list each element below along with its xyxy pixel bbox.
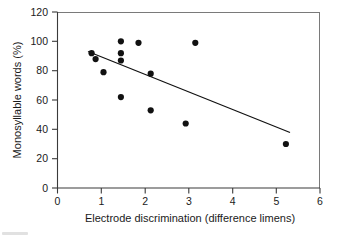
data-point [118, 94, 124, 100]
y-tick-label-20: 20 [36, 152, 48, 164]
x-tick-label-5: 5 [273, 195, 279, 207]
x-axis-tick-labels: 0 1 2 3 4 5 6 [55, 195, 324, 207]
x-tick-label-6: 6 [317, 195, 323, 207]
x-tick-label-4: 4 [230, 195, 236, 207]
y-axis-title: Monosyllable words (%) [11, 42, 23, 159]
y-tick-label-0: 0 [42, 182, 48, 194]
y-tick-label-120: 120 [30, 6, 48, 18]
regression-trend-line [88, 52, 290, 133]
x-tick-label-1: 1 [98, 195, 104, 207]
data-point [118, 50, 124, 56]
x-tick-label-2: 2 [142, 195, 148, 207]
data-point [93, 56, 99, 62]
data-point [100, 69, 106, 75]
data-point [148, 71, 154, 77]
data-point [89, 50, 95, 56]
scan-artifact [2, 232, 28, 235]
chart-canvas: 0 20 40 60 80 100 120 0 1 2 3 4 5 6 [0, 0, 337, 243]
data-point [135, 40, 141, 46]
y-tick-label-80: 80 [36, 64, 48, 76]
x-axis-title: Electrode discrimination (difference lim… [85, 212, 295, 224]
data-point [183, 120, 189, 126]
plot-frame [57, 13, 320, 189]
data-point-series [89, 38, 290, 147]
data-point [283, 141, 289, 147]
x-tick-label-3: 3 [186, 195, 192, 207]
y-tick-label-100: 100 [30, 35, 48, 47]
data-point [118, 57, 124, 63]
x-tick-label-0: 0 [55, 195, 61, 207]
y-tick-label-40: 40 [36, 123, 48, 135]
data-point [192, 40, 198, 46]
y-axis-tick-labels: 0 20 40 60 80 100 120 [30, 6, 48, 194]
scatter-plot-figure: 0 20 40 60 80 100 120 0 1 2 3 4 5 6 [0, 0, 337, 243]
y-axis-ticks [52, 12, 58, 188]
y-tick-label-60: 60 [36, 94, 48, 106]
x-axis-ticks [58, 188, 321, 194]
data-point [148, 107, 154, 113]
data-point [118, 38, 124, 44]
